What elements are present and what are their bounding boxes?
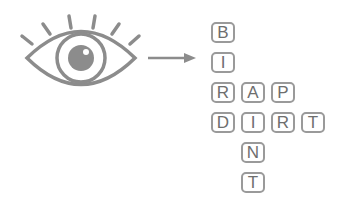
letter-tile: D xyxy=(211,112,235,133)
letter-tile: I xyxy=(241,112,265,133)
letter-tile: T xyxy=(241,172,265,193)
letter-tile: R xyxy=(271,112,295,133)
letter-tile: I xyxy=(211,52,235,73)
letter-tile: R xyxy=(211,82,235,103)
eye-icon xyxy=(0,0,200,110)
letter-tile: A xyxy=(241,82,265,103)
letter-tile: T xyxy=(301,112,325,133)
letter-tile: B xyxy=(211,22,235,43)
arrow-right-icon xyxy=(148,53,196,63)
letter-tile: N xyxy=(241,142,265,163)
letter-tile: P xyxy=(271,82,295,103)
